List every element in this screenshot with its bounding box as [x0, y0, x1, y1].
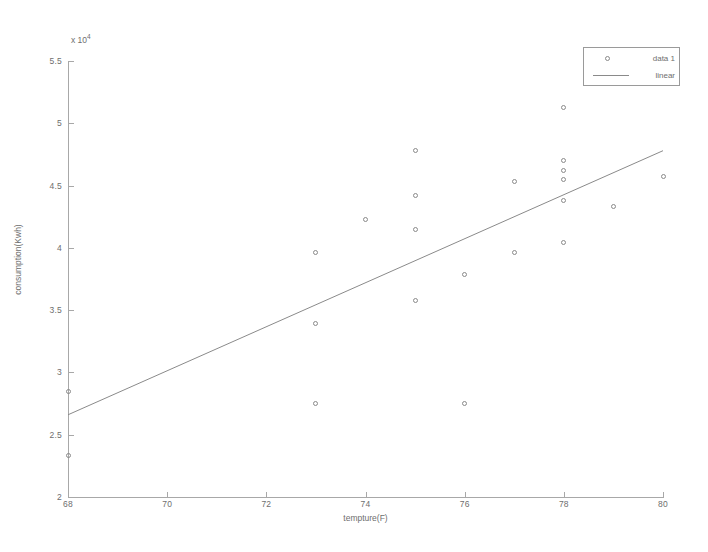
x-tick-label: 74 — [351, 500, 381, 509]
data-point-marker — [611, 204, 616, 209]
data-point-marker — [561, 168, 566, 173]
y-axis-title: consumption(Kwh) — [14, 160, 23, 360]
data-point-marker — [313, 250, 318, 255]
data-point-marker — [413, 148, 418, 153]
figure-canvas: x 104 22.533.544.555.5 68707274767880 co… — [0, 0, 708, 552]
x-tick-label: 70 — [152, 500, 182, 509]
legend-label: linear — [630, 71, 675, 80]
y-tick-mark — [69, 123, 74, 124]
data-point-marker — [561, 105, 566, 110]
y-tick-label: 3 — [28, 368, 62, 377]
x-tick-label: 80 — [648, 500, 678, 509]
y-tick-mark — [69, 61, 74, 62]
data-point-marker — [413, 193, 418, 198]
legend-line-icon — [593, 75, 629, 76]
y-tick-label: 4 — [28, 244, 62, 253]
data-point-marker — [413, 298, 418, 303]
x-tick-mark — [366, 492, 367, 497]
data-point-marker — [561, 177, 566, 182]
legend-entry[interactable]: data 1 — [584, 50, 681, 67]
legend-label: data 1 — [630, 54, 675, 63]
x-tick-label: 76 — [450, 500, 480, 509]
y-tick-label: 4.5 — [28, 182, 62, 191]
x-tick-mark — [68, 492, 69, 497]
y-tick-mark — [69, 248, 74, 249]
data-point-marker — [313, 401, 318, 406]
x-tick-label: 68 — [53, 500, 83, 509]
data-point-marker — [561, 158, 566, 163]
data-point-marker — [363, 217, 368, 222]
data-point-marker — [413, 227, 418, 232]
x-tick-mark — [663, 492, 664, 497]
data-point-marker — [512, 250, 517, 255]
y-tick-mark — [69, 372, 74, 373]
legend-box[interactable]: data 1linear — [583, 47, 680, 86]
y-tick-label: 5 — [28, 119, 62, 128]
data-point-marker — [561, 198, 566, 203]
data-point-marker — [661, 174, 666, 179]
y-exponent-power: 4 — [87, 33, 91, 40]
y-tick-label: 5.5 — [28, 57, 62, 66]
data-point-marker — [313, 321, 318, 326]
x-tick-mark — [465, 492, 466, 497]
x-tick-mark — [564, 492, 565, 497]
y-tick-mark — [69, 497, 74, 498]
legend-sample-marker — [590, 50, 630, 67]
data-point-marker — [561, 240, 566, 245]
x-tick-mark — [167, 492, 168, 497]
x-tick-mark — [266, 492, 267, 497]
y-tick-mark — [69, 186, 74, 187]
legend-sample-line — [590, 67, 630, 84]
x-axis-line — [68, 497, 664, 498]
x-tick-label: 72 — [251, 500, 281, 509]
y-axis-exponent-label: x 104 — [71, 32, 91, 45]
y-tick-mark — [69, 310, 74, 311]
data-point-marker — [462, 272, 467, 277]
data-point-marker — [512, 179, 517, 184]
y-tick-label: 3.5 — [28, 306, 62, 315]
y-axis-line — [68, 61, 69, 498]
y-tick-mark — [69, 435, 74, 436]
data-point-marker — [462, 401, 467, 406]
y-tick-label: 2.5 — [28, 431, 62, 440]
legend-entry[interactable]: linear — [584, 67, 681, 84]
legend-marker-icon — [605, 56, 610, 61]
x-tick-label: 78 — [549, 500, 579, 509]
y-exponent-base: x 10 — [71, 35, 87, 45]
x-axis-title: tempture(F) — [68, 514, 663, 523]
